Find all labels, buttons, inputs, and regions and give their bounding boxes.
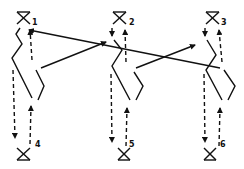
zigzag-right-2 [134, 72, 143, 100]
node-3-symbol [206, 12, 219, 24]
node-3-label: 3 [221, 19, 227, 27]
node-5-symbol [118, 148, 130, 160]
zigzag-right-1 [36, 70, 44, 100]
zigzag-right-3 [224, 70, 235, 100]
node-2-label: 2 [129, 19, 135, 27]
column-3 [204, 12, 235, 160]
dashed-up-1a [30, 30, 32, 60]
node-5-label: 5 [129, 141, 135, 149]
dashed-up-3a [219, 30, 222, 62]
dashed-down-3 [204, 74, 205, 142]
column-1 [12, 12, 44, 160]
node-1-label: 1 [32, 19, 38, 27]
dashed-up-1b [30, 106, 31, 144]
zigzag-left-3 [206, 40, 222, 100]
zigzag-left-1 [12, 28, 32, 98]
cross-arrows [29, 30, 220, 68]
node-6-symbol [204, 148, 216, 160]
column-2 [111, 12, 143, 160]
node-4-symbol [17, 148, 30, 160]
dashed-up-2b [126, 108, 127, 146]
arrow-to-node-3 [136, 45, 195, 68]
dashed-up-2a [125, 30, 126, 62]
arrow-to-node-1 [29, 30, 220, 68]
node-2-symbol [113, 12, 126, 24]
dashed-down-2 [111, 74, 112, 142]
node-1-symbol [17, 12, 30, 24]
dashed-down-1 [13, 70, 15, 138]
node-4-label: 4 [35, 141, 41, 149]
arrow-to-node-2 [41, 42, 106, 68]
node-6-label: 6 [220, 141, 226, 149]
